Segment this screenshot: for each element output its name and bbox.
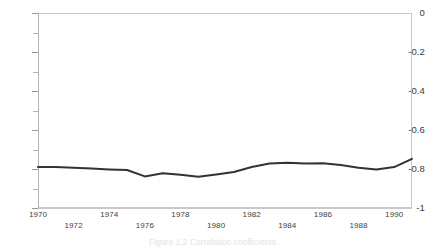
x-axis-label: 1978 [171,211,189,219]
figure-caption: Figure 1.2 Correlation coefficients [0,237,425,247]
x-axis-label: 1974 [100,211,118,219]
x-axis-label: 1988 [349,222,367,230]
x-axis-label: 1990 [385,211,403,219]
x-axis-label: 1984 [278,222,296,230]
x-axis-label: 1972 [65,222,83,230]
x-axis-label: 1982 [243,211,261,219]
x-axis-label: 1980 [207,222,225,230]
y-axis-tick [32,208,38,209]
x-axis-label: 1970 [29,211,47,219]
x-axis-label: 1986 [314,211,332,219]
chart-plot-svg [38,13,412,208]
x-axis-line [38,208,412,209]
data-series-line [38,159,412,177]
x-axis-label: 1976 [136,222,154,230]
